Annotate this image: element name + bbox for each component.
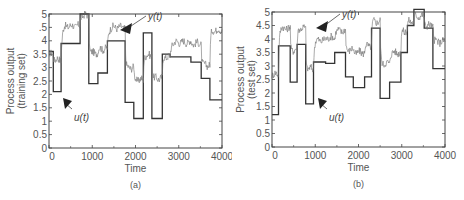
arrow-icon	[316, 21, 328, 32]
y-tick-label: .5	[39, 22, 48, 33]
series-yt-line	[272, 12, 445, 78]
annotation-yt: y(t)	[341, 9, 356, 20]
y-tick-label: 4	[41, 35, 47, 46]
chart-panel-b: 00.511.522.533.544.5501000200030004000Ti…	[232, 0, 464, 200]
y-tick-label: 3.5	[33, 49, 47, 60]
annotations: y(t)u(t)	[316, 9, 356, 123]
x-tick-label: 2000	[347, 150, 370, 161]
annotation-yt: y(t)	[147, 11, 162, 22]
panel-caption: (a)	[130, 180, 141, 190]
series-ut-line	[49, 14, 222, 119]
y-tick-label: 1	[264, 115, 270, 126]
series-ut-line	[272, 9, 445, 114]
y-tick-label: 3	[264, 61, 270, 72]
y-tick-label: 1	[41, 116, 47, 127]
y-tick-label: 0.5	[33, 129, 47, 140]
chart-panel-a: 00.511.522.533.54.5501000200030004000Tim…	[0, 0, 232, 200]
x-tick-label: 3000	[168, 151, 191, 162]
y-tick-label: 2	[41, 89, 47, 100]
series-yt-line	[49, 11, 222, 83]
x-axis: 01000200030004000	[49, 14, 232, 162]
y-axis: 00.511.522.533.544.55	[256, 7, 445, 153]
x-tick-label: 1000	[81, 151, 104, 162]
y-tick-label: 1.5	[33, 102, 47, 113]
y-tick-label: 0	[264, 142, 270, 153]
y-tick-label: 2	[264, 88, 270, 99]
y-tick-label: 3	[41, 62, 47, 73]
annotation-ut: u(t)	[329, 112, 344, 123]
y-tick-label: 4	[264, 34, 270, 45]
y-axis-label: Process output	[235, 46, 246, 113]
x-tick-label: 0	[49, 151, 55, 162]
x-tick-label: 2000	[124, 151, 147, 162]
arrow-icon	[63, 98, 72, 109]
y-tick-label: 5	[264, 7, 270, 18]
y-axis-label: Process output	[5, 47, 16, 114]
y-tick-label: 0.5	[256, 128, 270, 139]
x-tick-label: 4000	[434, 150, 457, 161]
y-tick-label: 2.5	[33, 76, 47, 87]
y-tick-label: 3.5	[256, 47, 270, 58]
y-tick-label: 5	[41, 9, 47, 20]
arrow-icon	[318, 98, 327, 109]
y-tick-label: 2.5	[256, 74, 270, 85]
panel-caption: (b)	[353, 179, 364, 189]
y-axis-label: (test set)	[246, 60, 257, 99]
x-tick-label: 1000	[304, 150, 327, 161]
x-axis-label: Time	[125, 163, 147, 174]
x-tick-label: 3000	[391, 150, 414, 161]
y-tick-label: 0	[41, 143, 47, 154]
y-axis-label: (training set)	[16, 53, 27, 109]
chart-training-set: 00.511.522.533.54.5501000200030004000Tim…	[0, 0, 232, 200]
x-tick-label: 0	[272, 150, 278, 161]
annotation-ut: u(t)	[74, 112, 89, 123]
x-tick-label: 4000	[211, 151, 232, 162]
arrow-icon	[120, 23, 132, 34]
chart-test-set: 00.511.522.533.544.5501000200030004000Ti…	[232, 0, 464, 200]
x-axis-label: Time	[348, 162, 370, 173]
y-tick-label: 1.5	[256, 101, 270, 112]
y-tick-label: 4.5	[256, 20, 270, 31]
